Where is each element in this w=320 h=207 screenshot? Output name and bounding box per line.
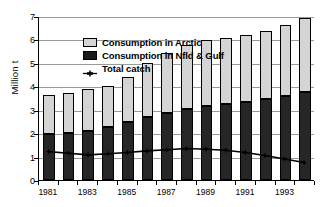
bar-segment-nfld-gulf	[82, 131, 94, 180]
x-axis-tick-mark	[58, 181, 59, 185]
x-axis-tick-mark	[235, 181, 236, 185]
x-axis: 1981198319851987198919911993	[38, 181, 314, 207]
x-axis-tick-mark	[215, 181, 216, 185]
y-axis-tick-label: 0	[17, 176, 35, 186]
bar-segment-nfld-gulf	[102, 127, 114, 180]
x-axis-tick-mark	[117, 181, 118, 185]
x-axis-tick-label: 1985	[117, 187, 136, 197]
bar-segment-arctic	[240, 35, 252, 102]
bar-segment-arctic	[43, 95, 55, 134]
x-axis-tick-mark	[314, 181, 315, 185]
gridline	[39, 158, 314, 159]
bar-segment-nfld-gulf	[240, 102, 252, 180]
bar-segment-arctic	[63, 93, 75, 133]
y-axis-tick-label: 6	[17, 35, 35, 45]
gridline	[39, 111, 314, 112]
bar-segment-nfld-gulf	[201, 106, 213, 180]
x-axis-tick-mark	[176, 181, 177, 185]
chart-legend: Consumption in Arctic Consumption in Nfl…	[83, 36, 224, 74]
y-axis-tick-label: 1	[17, 153, 35, 163]
bar-segment-arctic	[82, 89, 94, 131]
x-axis-tick-mark	[196, 181, 197, 185]
x-axis-tick-label: 1993	[275, 187, 294, 197]
x-axis-tick-mark	[97, 181, 98, 185]
legend-item-total-catch: Total catch	[83, 62, 224, 74]
x-axis-tick-label: 1981	[38, 187, 57, 197]
gridline	[39, 87, 314, 88]
x-axis-tick-mark	[156, 181, 157, 185]
y-axis-tick-label: 2	[17, 129, 35, 139]
x-axis-tick-mark	[77, 181, 78, 185]
y-axis-tick-label: 3	[17, 106, 35, 116]
x-axis-tick-mark	[275, 181, 276, 185]
gridline	[39, 134, 314, 135]
y-axis-tick-label: 5	[17, 59, 35, 69]
x-axis-tick-label: 1987	[157, 187, 176, 197]
bar-segment-nfld-gulf	[280, 96, 292, 180]
bar-segment-arctic	[122, 77, 134, 122]
bar-segment-arctic	[102, 86, 114, 128]
chart-figure: Million t 01234567 Consumption in Arctic…	[0, 0, 320, 207]
legend-swatch-nfld-icon	[83, 51, 97, 60]
legend-item-arctic: Consumption in Arctic	[83, 36, 224, 48]
bar-segment-nfld-gulf	[122, 122, 134, 180]
x-axis-tick-mark	[38, 181, 39, 185]
x-axis-tick-label: 1983	[78, 187, 97, 197]
bar-segment-arctic	[260, 31, 272, 100]
bar-segment-nfld-gulf	[63, 133, 75, 180]
bar-segment-nfld-gulf	[43, 134, 55, 180]
x-axis-tick-mark	[137, 181, 138, 185]
bar-segment-nfld-gulf	[299, 92, 311, 180]
bar-segment-nfld-gulf	[181, 109, 193, 180]
x-axis-tick-label: 1991	[236, 187, 255, 197]
bar-group	[43, 17, 55, 180]
x-axis-tick-mark	[294, 181, 295, 185]
bar-segment-nfld-gulf	[161, 113, 173, 180]
bar-segment-nfld-gulf	[142, 117, 154, 180]
legend-label-arctic: Consumption in Arctic	[102, 37, 201, 48]
bar-segment-nfld-gulf	[260, 99, 272, 180]
bar-segment-arctic	[280, 25, 292, 96]
bar-group	[240, 17, 252, 180]
bar-group	[63, 17, 75, 180]
legend-line-marker-icon	[83, 64, 97, 73]
legend-swatch-arctic-icon	[83, 38, 97, 47]
bar-segment-nfld-gulf	[220, 104, 232, 180]
legend-label-nfld: Consumption in Nfld & Gulf	[102, 50, 224, 61]
bar-group	[280, 17, 292, 180]
bar-group	[299, 17, 311, 180]
y-axis-tick-label: 7	[17, 12, 35, 22]
y-axis-tick-label: 4	[17, 82, 35, 92]
bar-group	[260, 17, 272, 180]
bar-segment-arctic	[299, 18, 311, 92]
x-axis-tick-label: 1989	[196, 187, 215, 197]
legend-item-nfld: Consumption in Nfld & Gulf	[83, 49, 224, 61]
legend-label-total-catch: Total catch	[102, 63, 150, 74]
x-axis-tick-mark	[255, 181, 256, 185]
plot-area: Consumption in Arctic Consumption in Nfl…	[38, 17, 314, 181]
gridline	[39, 17, 314, 18]
